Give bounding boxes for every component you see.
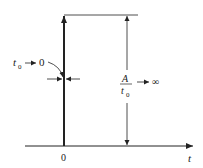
svg-text:0: 0 [18, 63, 22, 71]
height-limit-label: A t 0 ∞ [120, 73, 159, 99]
svg-text:t: t [121, 85, 124, 96]
width-limit-label: t 0 0 [13, 56, 45, 71]
impulse-diagram: t 0 0 A t 0 ∞ 0 t [0, 0, 203, 168]
svg-text:0: 0 [126, 91, 130, 99]
origin-label: 0 [61, 152, 66, 163]
svg-text:0: 0 [39, 56, 45, 68]
svg-text:A: A [121, 73, 129, 84]
t-axis-label: t [188, 152, 192, 164]
svg-text:∞: ∞ [152, 76, 159, 87]
svg-text:t: t [13, 56, 17, 68]
width-pointer-curve [48, 62, 63, 77]
